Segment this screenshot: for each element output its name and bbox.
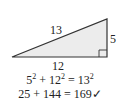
checkmark-icon: ✓ <box>92 87 102 101</box>
numeric-equation-text: 25 + 144 = 169 <box>18 87 92 101</box>
pythagorean-equation: 52 + 122 = 132 <box>0 73 120 88</box>
equals-sign: = <box>65 73 78 87</box>
term-c: 13 <box>78 73 90 87</box>
hypotenuse-label: 13 <box>50 23 62 37</box>
exponent-c: 2 <box>90 72 94 81</box>
horizontal-leg-label: 12 <box>52 59 64 73</box>
plus-sign: + <box>36 73 49 87</box>
vertical-leg-label: 5 <box>110 32 116 46</box>
numeric-check-equation: 25 + 144 = 169✓ <box>0 87 120 102</box>
term-b: 12 <box>49 73 61 87</box>
